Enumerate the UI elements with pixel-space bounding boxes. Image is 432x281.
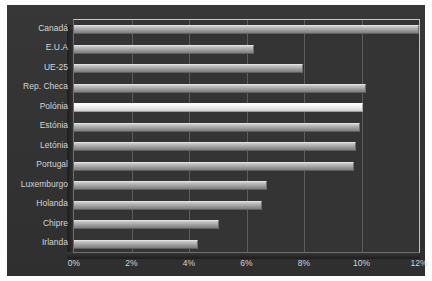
gridline [132, 20, 133, 252]
gridline [247, 20, 248, 252]
chart-panel: CanadáE.U.AUE-25Rep. ChecaPolóniaEstónia… [7, 5, 425, 276]
bar-portugal [74, 162, 354, 171]
y-axis-label-rep-checa: Rep. Checa [7, 82, 68, 91]
y-axis-label-portugal: Portugal [7, 160, 68, 169]
bar-est-nia [74, 123, 360, 132]
gridline [419, 20, 420, 252]
x-axis-tick-8pct: 8% [284, 258, 324, 268]
y-axis-label-est-nia: Estónia [7, 121, 68, 130]
bar-rep-checa [74, 84, 366, 93]
bar-canad [74, 25, 419, 34]
bar-chipre [74, 220, 219, 229]
y-axis-label-pol-nia: Polónia [7, 102, 68, 111]
x-axis-tick-0pct: 0% [54, 258, 94, 268]
bar-let-nia [74, 142, 356, 151]
y-axis-label-ue-25: UE-25 [7, 63, 68, 72]
y-axis-label-chipre: Chipre [7, 219, 68, 228]
bar-holanda [74, 201, 262, 210]
y-axis-label-holanda: Holanda [7, 199, 68, 208]
x-axis-tick-4pct: 4% [169, 258, 209, 268]
gridline [304, 20, 305, 252]
x-axis-tick-2pct: 2% [112, 258, 152, 268]
bar-pol-nia [74, 103, 363, 112]
bar-luxemburgo [74, 181, 267, 190]
x-axis-tick-12pct: 12% [399, 258, 432, 268]
y-axis-label-canad: Canadá [7, 24, 68, 33]
y-axis-label-luxemburgo: Luxemburgo [7, 180, 68, 189]
y-axis-label-let-nia: Letónia [7, 141, 68, 150]
y-axis-label-irlanda: Irlanda [7, 238, 68, 247]
bar-ue-25 [74, 64, 303, 73]
gridline [362, 20, 363, 252]
chart-figure: CanadáE.U.AUE-25Rep. ChecaPolóniaEstónia… [0, 0, 432, 281]
bar-e-u-a [74, 45, 254, 54]
bar-irlanda [74, 240, 198, 249]
x-axis-tick-10pct: 10% [342, 258, 382, 268]
x-axis-tick-6pct: 6% [227, 258, 267, 268]
gridline [189, 20, 190, 252]
plot-area [73, 19, 420, 253]
y-axis-label-e-u-a: E.U.A [7, 43, 68, 52]
